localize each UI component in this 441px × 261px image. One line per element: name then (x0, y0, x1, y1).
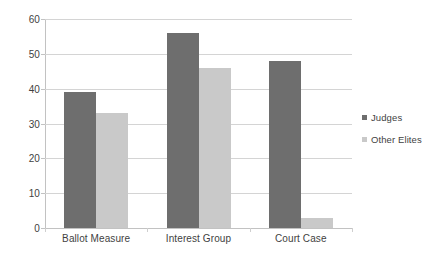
legend-item[interactable]: Judges (362, 112, 440, 123)
y-axis-tick-label: 30 (6, 118, 40, 129)
legend-label: Other Elites (371, 134, 422, 145)
y-axis-tickmark (41, 193, 45, 194)
x-axis-label: Interest Group (147, 233, 249, 244)
x-axis-label: Court Case (250, 233, 352, 244)
y-axis-tick-label: 0 (6, 223, 40, 234)
bar (167, 33, 199, 228)
bar (199, 68, 231, 228)
x-axis-tickmark (45, 228, 46, 232)
y-axis-tickmark (41, 124, 45, 125)
gridline (45, 228, 352, 229)
y-axis-tickmark (41, 19, 45, 20)
x-axis-labels: Ballot MeasureInterest GroupCourt Case (45, 233, 352, 251)
y-axis-tick-label: 20 (6, 153, 40, 164)
plot-area (45, 19, 352, 228)
x-axis-tickmark (250, 228, 251, 232)
x-axis-label: Ballot Measure (45, 233, 147, 244)
legend-item[interactable]: Other Elites (362, 134, 440, 145)
legend-label: Judges (371, 112, 402, 123)
y-axis-tickmark (41, 89, 45, 90)
y-axis-tick-label: 60 (6, 14, 40, 25)
gridline (45, 19, 352, 20)
legend-swatch-icon (362, 137, 367, 142)
gridline (45, 54, 352, 55)
bar (269, 61, 301, 228)
x-axis-tickmark (147, 228, 148, 232)
bar (64, 92, 96, 228)
y-axis-tickmark (41, 158, 45, 159)
y-axis-ticks: 0102030405060 (0, 19, 40, 228)
chart-title (18, 0, 318, 5)
bar-chart: 0102030405060 Ballot MeasureInterest Gro… (0, 0, 441, 261)
y-axis-tick-label: 10 (6, 188, 40, 199)
x-axis-tickmark (352, 228, 353, 232)
bar (301, 218, 333, 228)
bar (96, 113, 128, 228)
y-axis-tick-label: 40 (6, 83, 40, 94)
legend-swatch-icon (362, 115, 367, 120)
y-axis-tick-label: 50 (6, 48, 40, 59)
chart-legend: JudgesOther Elites (362, 112, 440, 156)
y-axis-tickmark (41, 54, 45, 55)
